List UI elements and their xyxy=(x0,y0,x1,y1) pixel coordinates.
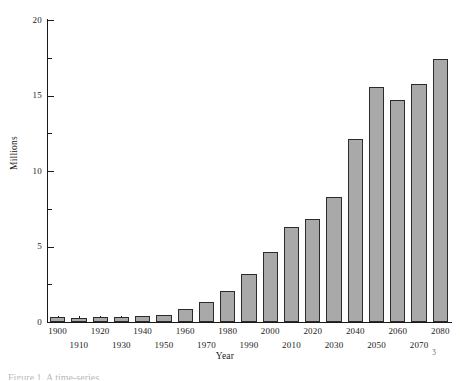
bar xyxy=(220,291,235,322)
y-tick-label: 5 xyxy=(2,242,42,251)
bar xyxy=(93,317,108,322)
bar xyxy=(156,315,171,322)
y-tick-label: 0 xyxy=(2,318,42,327)
x-tick-label: 1990 xyxy=(229,341,269,350)
x-axis-line xyxy=(47,322,452,323)
bar xyxy=(241,274,256,322)
x-tick-label: 2050 xyxy=(357,341,397,350)
x-tick-label: 2010 xyxy=(272,341,312,350)
stray-glyph-artifact: ʒ xyxy=(432,345,436,355)
bar xyxy=(390,100,405,322)
x-tick-label: 1940 xyxy=(123,327,163,336)
bar xyxy=(305,219,320,322)
bar xyxy=(199,302,214,322)
y-tick-label: 20 xyxy=(2,16,42,25)
x-tick-label: 1950 xyxy=(144,341,184,350)
bar-chart-figure: 05101520 1900191019201930194019501960197… xyxy=(0,0,460,381)
bar xyxy=(326,197,341,322)
bar xyxy=(71,318,86,322)
bar xyxy=(50,317,65,322)
x-tick-label: 1910 xyxy=(59,341,99,350)
plot-area xyxy=(47,20,451,322)
y-axis-title: Millions xyxy=(9,123,19,183)
y-tick-major xyxy=(48,322,54,323)
bar xyxy=(178,309,193,322)
x-tick-label: 2020 xyxy=(293,327,333,336)
x-tick-label: 1930 xyxy=(101,341,141,350)
y-tick-label: 15 xyxy=(2,91,42,100)
bar xyxy=(263,252,278,322)
x-tick-label: 1960 xyxy=(165,327,205,336)
bar xyxy=(135,316,150,322)
bar xyxy=(369,87,384,322)
x-axis-title: Year xyxy=(180,351,270,361)
x-tick-label: 2000 xyxy=(250,327,290,336)
bar xyxy=(284,227,299,322)
x-tick-label: 1920 xyxy=(80,327,120,336)
x-tick-label: 1970 xyxy=(186,341,226,350)
bar xyxy=(348,139,363,322)
bar xyxy=(114,317,129,322)
x-tick-label: 1900 xyxy=(38,327,78,336)
x-tick-label: 1980 xyxy=(208,327,248,336)
x-tick-label: 2030 xyxy=(314,341,354,350)
y-tick-label: 10 xyxy=(2,167,42,176)
bar xyxy=(411,84,426,322)
bar xyxy=(433,59,448,322)
figure-caption-fragment: Figure 1. A time-series xyxy=(8,372,308,380)
x-tick-label: 2080 xyxy=(420,327,460,336)
x-tick-label: 2060 xyxy=(378,327,418,336)
x-tick-label: 2040 xyxy=(335,327,375,336)
